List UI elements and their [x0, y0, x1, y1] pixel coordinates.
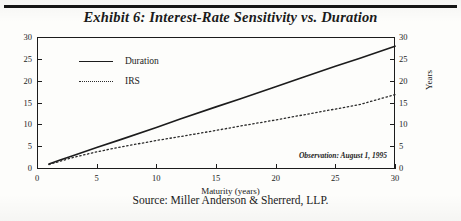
legend: Duration IRS — [79, 51, 159, 91]
x-tick — [395, 164, 396, 169]
x-ticklabel: 20 — [266, 173, 286, 183]
y-ticklabel-right: 25 — [399, 54, 415, 64]
y-tick-right — [390, 168, 394, 169]
legend-label-irs: IRS — [125, 76, 140, 86]
chart-title: Exhibit 6: Interest-Rate Sensitivity vs.… — [0, 9, 461, 26]
y-ticklabel-left: 30 — [16, 32, 32, 42]
y-ticklabel-left: 5 — [16, 141, 32, 151]
y-ticklabel-right: 20 — [399, 76, 415, 86]
legend-item-irs: IRS — [79, 71, 159, 91]
source-caption: Source: Miller Anderson & Sherrerd, LLP. — [0, 194, 461, 206]
y-axis-right-title: Years — [424, 70, 434, 90]
observation-annotation: Observation: August 1, 1995 — [299, 151, 387, 160]
y-ticklabel-left: 20 — [16, 76, 32, 86]
figure-container: Exhibit 6: Interest-Rate Sensitivity vs.… — [0, 0, 461, 221]
y-ticklabel-left: 15 — [16, 98, 32, 108]
x-ticklabel: 10 — [146, 173, 166, 183]
x-ticklabel: 15 — [206, 173, 226, 183]
top-divider — [4, 5, 457, 8]
legend-swatch-dotted-icon — [79, 77, 113, 85]
y-ticklabel-right: 15 — [399, 98, 415, 108]
legend-swatch-solid-icon — [79, 57, 113, 65]
y-ticklabel-left: 0 — [16, 163, 32, 173]
y-ticklabel-right: 0 — [399, 163, 415, 173]
x-ticklabel: 30 — [385, 173, 405, 183]
y-ticklabel-left: 25 — [16, 54, 32, 64]
y-ticklabel-left: 10 — [16, 119, 32, 129]
y-ticklabel-right: 5 — [399, 141, 415, 151]
y-tick-left — [38, 168, 42, 169]
plot-area: 051015202530 051015202530 051015202530 D… — [37, 37, 395, 168]
legend-item-duration: Duration — [79, 51, 159, 71]
legend-label-duration: Duration — [125, 56, 159, 66]
x-ticklabel: 0 — [27, 173, 47, 183]
y-ticklabel-right: 10 — [399, 119, 415, 129]
y-ticklabel-right: 30 — [399, 32, 415, 42]
x-ticklabel: 25 — [325, 173, 345, 183]
x-ticklabel: 5 — [87, 173, 107, 183]
